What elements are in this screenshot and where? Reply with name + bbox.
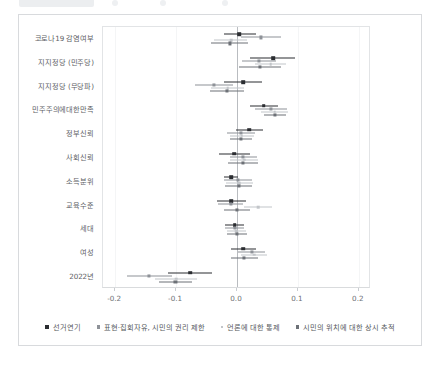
y-axis-label: 여성 xyxy=(80,247,94,257)
estimate-point xyxy=(237,185,240,188)
estimate-point xyxy=(269,63,272,66)
legend-label: 시민의 위치에 대한 상시 추적 xyxy=(303,322,395,332)
estimate-point xyxy=(188,271,192,275)
toolbar-dot-1 xyxy=(112,0,118,6)
toolbar-dot-2 xyxy=(160,0,166,6)
estimate-point xyxy=(226,89,229,92)
legend-marker-icon xyxy=(45,325,49,329)
x-axis-tick xyxy=(297,288,298,291)
estimate-point xyxy=(235,232,238,235)
y-axis-label: 2022년 xyxy=(69,271,94,281)
y-axis-labels: 코로나19 감염여부지지정당 (민주당)지지정당 (무당파)민주주의에대한만족정… xyxy=(18,26,100,288)
chart-legend: 선거연기표현·집회자유, 시민의 권리 제한언론에 대한 통제시민의 위치에 대… xyxy=(18,316,422,338)
legend-marker-icon xyxy=(296,325,299,328)
estimate-point xyxy=(229,176,233,180)
estimate-point xyxy=(232,152,236,156)
toolbar-dot-3 xyxy=(222,0,228,6)
estimate-point xyxy=(229,203,232,206)
estimate-point xyxy=(259,66,262,69)
y-axis-label: 사회신뢰 xyxy=(66,152,94,162)
chart-root: 코로나19 감염여부지지정당 (민주당)지지정당 (무당파)민주주의에대한만족정… xyxy=(0,0,440,366)
y-axis-label: 지지정당 (민주당) xyxy=(38,57,94,67)
gridline-vertical xyxy=(359,27,360,287)
x-axis-tick xyxy=(358,288,359,291)
y-axis-label: 정부신뢰 xyxy=(66,128,94,138)
legend-item[interactable]: 시민의 위치에 대한 상시 추적 xyxy=(296,322,395,332)
legend-label: 표현·집회자유, 시민의 권리 제한 xyxy=(104,322,205,332)
estimate-point xyxy=(228,42,231,45)
legend-item[interactable]: 언론에 대한 통제 xyxy=(221,322,280,332)
estimate-point xyxy=(212,83,215,86)
x-axis-label: 0.2 xyxy=(352,294,363,303)
estimate-point xyxy=(235,209,238,212)
estimate-point xyxy=(271,56,275,60)
plot-panel xyxy=(102,26,370,288)
estimate-point xyxy=(241,247,245,251)
estimate-point xyxy=(257,206,260,209)
toolbar-chip xyxy=(19,0,94,7)
legend-label: 언론에 대한 통제 xyxy=(227,322,280,332)
y-axis-label: 민주주의에대한만족 xyxy=(32,104,94,114)
x-axis-label: -0.1 xyxy=(168,294,182,303)
estimate-point xyxy=(239,137,242,140)
estimate-point xyxy=(262,104,266,108)
estimate-point xyxy=(241,80,245,84)
y-axis-label: 소득분위 xyxy=(66,176,94,186)
legend-item[interactable]: 표현·집회자유, 시민의 권리 제한 xyxy=(97,322,205,332)
top-toolbar-remnant xyxy=(0,0,440,10)
legend-marker-icon xyxy=(97,325,100,328)
y-axis-label: 지지정당 (무당파) xyxy=(38,81,94,91)
estimate-point xyxy=(174,280,177,283)
estimate-point xyxy=(273,113,276,116)
estimate-point xyxy=(148,274,151,277)
estimate-point xyxy=(243,256,246,259)
y-axis-label: 세대 xyxy=(80,223,94,233)
x-axis-label: -0.2 xyxy=(107,294,121,303)
estimate-point xyxy=(253,253,256,256)
gridline-vertical xyxy=(176,27,177,287)
estimate-point xyxy=(270,107,273,110)
x-axis-tick xyxy=(175,288,176,291)
legend-label: 선거연기 xyxy=(53,322,81,332)
y-axis-label: 교육수준 xyxy=(66,200,94,210)
x-axis-tick xyxy=(114,288,115,291)
estimate-point xyxy=(247,128,251,132)
x-axis-label: 0.0 xyxy=(230,294,241,303)
x-axis-tick xyxy=(236,288,237,291)
estimate-point xyxy=(238,33,242,37)
y-axis-label: 코로나19 감염여부 xyxy=(35,33,94,43)
gridline-vertical xyxy=(298,27,299,287)
estimate-point xyxy=(260,36,263,39)
legend-marker-icon xyxy=(221,326,224,329)
legend-item[interactable]: 선거연기 xyxy=(45,322,81,332)
gridline-vertical xyxy=(115,27,116,287)
estimate-point xyxy=(257,60,260,63)
x-axis-label: 0.1 xyxy=(291,294,302,303)
estimate-point xyxy=(242,161,245,164)
